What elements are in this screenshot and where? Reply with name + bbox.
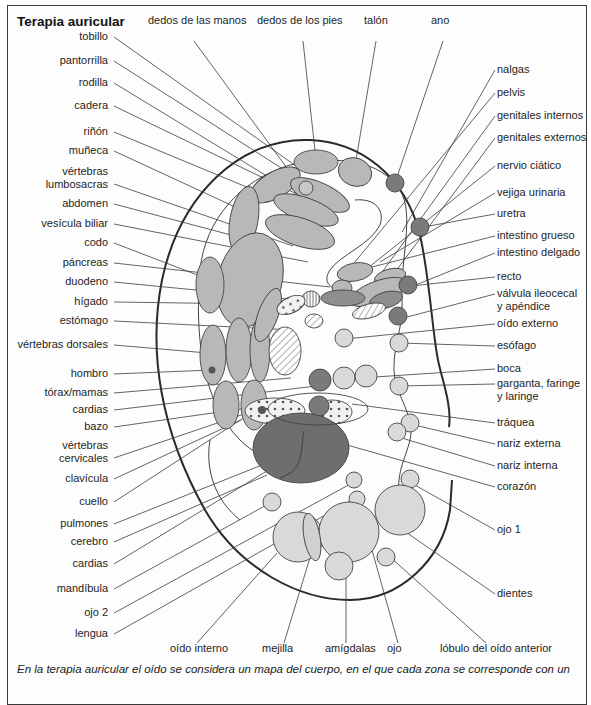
label-muñeca: muñeca (69, 144, 108, 157)
label-nariz-externa: nariz externa (497, 437, 561, 450)
label-bazo: bazo (84, 420, 108, 433)
label-talón: talón (364, 14, 388, 27)
label-cadera: cadera (74, 99, 108, 112)
label-dedos-de-los-pies: dedos de los pies (257, 14, 343, 27)
label-oído-interno: oído interno (170, 642, 228, 655)
label-uretra: uretra (497, 207, 526, 220)
label-boca: boca (497, 362, 521, 375)
label-hígado: hígado (74, 295, 108, 308)
label-pelvis: pelvis (497, 86, 525, 99)
label-vértebras: vértebrascervicales (59, 439, 108, 464)
label-codo: codo (84, 236, 108, 249)
label-genitales-internos: genitales internos (497, 109, 583, 122)
leader-line (407, 294, 495, 317)
label-clavícula: clavícula (65, 472, 108, 485)
leader-line (114, 465, 262, 524)
leader-line (380, 193, 495, 262)
leader-line (114, 420, 241, 479)
label-vesícula-biliar: vesícula biliar (41, 217, 108, 230)
label-abdomen: abdomen (62, 197, 108, 210)
label-ojo-2: ojo 2 (84, 606, 108, 619)
label-válvula-ileocecal: válvula ileocecaly apéndice (497, 287, 577, 312)
label-páncreas: páncreas (63, 256, 108, 269)
label-dedos-de-las-manos: dedos de las manos (148, 14, 246, 27)
label-intestino-grueso: intestino grueso (497, 229, 575, 242)
label-cerebro: cerebro (71, 535, 108, 548)
label-mandíbula: mandíbula (57, 582, 108, 595)
leader-line (395, 41, 443, 183)
leader-line (402, 70, 495, 232)
label-corazón: corazón (497, 480, 536, 493)
label-genitales-externos: genitales externos (497, 131, 586, 144)
label-garganta-faringe: garganta, faringey laringe (497, 377, 580, 402)
label-vértebras: vértebraslumbosacras (46, 165, 108, 190)
leader-line (400, 343, 495, 346)
label-vértebras-dorsales: vértebras dorsales (18, 338, 109, 351)
leader-line (410, 424, 495, 444)
label-cardias: cardias (73, 403, 108, 416)
leader-line (114, 370, 212, 374)
label-dientes: dientes (497, 587, 532, 600)
label-pulmones: pulmones (60, 517, 108, 530)
label-recto: recto (497, 270, 521, 283)
label-esófago: esófago (497, 339, 536, 352)
label-nalgas: nalgas (497, 63, 529, 76)
leader-line (390, 557, 486, 643)
leader-line (354, 41, 376, 172)
label-pantorrilla: pantorrilla (60, 54, 108, 67)
label-mejilla: mejilla (262, 642, 293, 655)
label-vejiga-urinaria: vejiga urinaria (497, 186, 565, 199)
label-cardias: cardias (73, 557, 108, 570)
label-hombro: hombro (71, 367, 108, 380)
leader-line (284, 551, 312, 643)
label-intestino-delgado: intestino delgado (497, 246, 580, 259)
figure-caption: En la terapia auricular el oído se consi… (17, 663, 570, 675)
leader-line (114, 460, 285, 564)
label-nariz-interna: nariz interna (497, 459, 558, 472)
label-rodilla: rodilla (79, 76, 108, 89)
label-ojo: ojo (387, 642, 402, 655)
label-estómago: estómago (60, 314, 108, 327)
leader-line (375, 116, 495, 282)
leader-line (360, 236, 495, 270)
label-cuello: cuello (79, 495, 108, 508)
leader-line (413, 484, 495, 530)
label-riñón: riñón (84, 125, 108, 138)
label-amígdalas: amígdalas (325, 642, 376, 655)
label-ano: ano (431, 14, 449, 27)
leader-line (345, 324, 495, 339)
leader-line (400, 384, 495, 386)
leader-line (352, 404, 495, 423)
leader-line (354, 93, 495, 263)
label-lengua: lengua (75, 627, 108, 640)
label-ojo-1: ojo 1 (497, 523, 521, 536)
label-duodeno: duodeno (65, 275, 108, 288)
leader-line (114, 61, 300, 180)
leader-line (114, 502, 272, 589)
label-nervio-ciático: nervio ciático (497, 159, 561, 172)
leader-line (303, 41, 316, 160)
label-lóbulo-del-oído-anterior: lóbulo del oído anterior (440, 642, 552, 655)
label-tobillo: tobillo (79, 30, 108, 43)
label-tórax-mamas: tórax/mamas (44, 386, 108, 399)
leader-line (197, 553, 277, 643)
label-oído-externo: oído externo (497, 317, 558, 330)
label-tráquea: tráquea (497, 416, 534, 429)
leader-line (400, 528, 495, 594)
